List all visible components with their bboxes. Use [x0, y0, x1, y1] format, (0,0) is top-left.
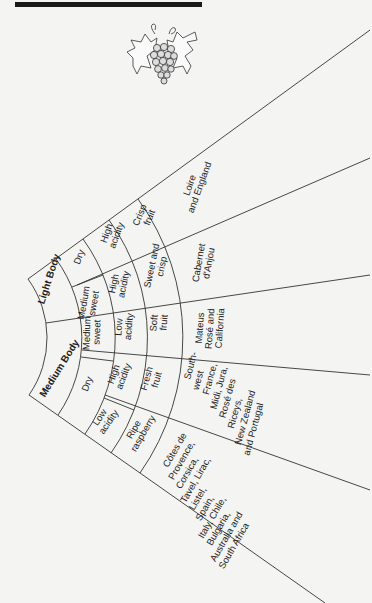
label-fresh-fruit: Fresh fruit: [138, 363, 165, 394]
label-sweet-and-crisp: Sweet and crisp: [141, 240, 171, 291]
label-loire-england: Loire and England: [175, 157, 213, 214]
label-soft-fruit: Soft fruit: [147, 311, 170, 332]
label-mateus-california: Mateus Rosé and California: [193, 305, 227, 350]
label-medium-body: Medium Body: [37, 337, 81, 399]
label-low-acidity-1: Low acidity: [112, 312, 135, 341]
label-high-acidity-1: High acidity: [97, 217, 126, 250]
arc-ring-body: [56, 259, 82, 415]
radial-divider: [81, 357, 113, 361]
wine-fan-diagram: Light Body Medium Body Dry Medium sweet …: [0, 0, 372, 603]
label-medium-sweet-2: Medium sweet: [80, 313, 102, 350]
label-dry-1: Dry: [71, 248, 86, 266]
label-light-body: Light Body: [35, 252, 62, 305]
label-crisp-fruit: Crisp fruit: [130, 200, 159, 231]
label-low-acidity-2: Low acidity: [88, 402, 121, 436]
label-cabernet-danjou: Cabernet d'Anjou: [190, 240, 218, 285]
radial-line: [77, 158, 370, 285]
label-dry-2: Dry: [79, 375, 94, 393]
label-cotes-de-provence: Côtes de Provence, Corsica, Tavel, Lirac…: [130, 431, 274, 571]
